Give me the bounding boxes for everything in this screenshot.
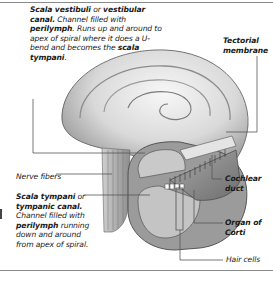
label-scala-vestibuli: Scala vestibuli or vestibular canal. Cha… bbox=[30, 5, 162, 63]
label-scala-tympani: Scala tympani or tympanic canal. Channel… bbox=[16, 192, 92, 250]
description-part: Channel filled with bbox=[16, 211, 85, 220]
label-tectorial-membrane: Tectorial membrane bbox=[223, 36, 273, 55]
perilymph-term: perilymph bbox=[30, 24, 72, 33]
scala-tympani-term: Scala tympani bbox=[16, 192, 75, 201]
label-nerve-fibers: Nerve fibers bbox=[16, 172, 61, 182]
nerve-fibers-bundle bbox=[102, 148, 130, 232]
label-cochlear-duct: Cochlear duct bbox=[225, 174, 271, 193]
description-part: Channel filled with bbox=[55, 15, 126, 24]
punctuation: . bbox=[64, 53, 66, 62]
label-hair-cells: Hair cells bbox=[226, 255, 260, 265]
scala-vestibuli-term: Scala vestibuli bbox=[30, 5, 91, 14]
conjunction: or bbox=[91, 5, 103, 14]
tympanic-canal-term: tympanic canal. bbox=[16, 202, 82, 211]
conjunction: or bbox=[75, 192, 85, 201]
edge-tick-mark bbox=[0, 209, 2, 219]
bottom-rule bbox=[0, 270, 273, 271]
label-organ-of-corti: Organ of Corti bbox=[225, 218, 271, 237]
perilymph-term: perilymph bbox=[16, 221, 58, 230]
